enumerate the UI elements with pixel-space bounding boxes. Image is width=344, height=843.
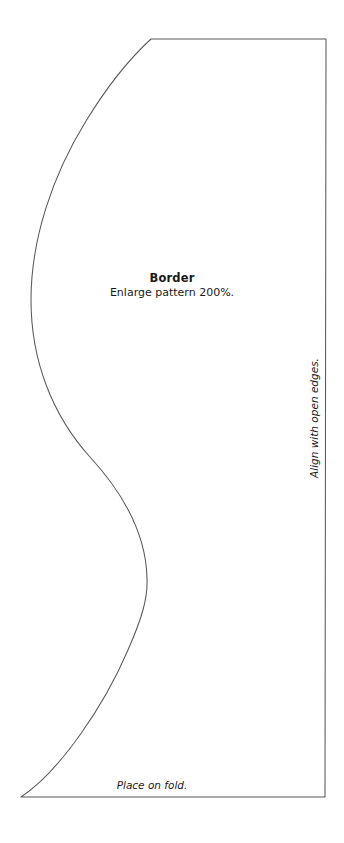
pattern-outline-drawing — [0, 0, 344, 843]
page-background — [0, 0, 344, 843]
pattern-page: Border Enlarge pattern 200%. Place on fo… — [0, 0, 344, 843]
